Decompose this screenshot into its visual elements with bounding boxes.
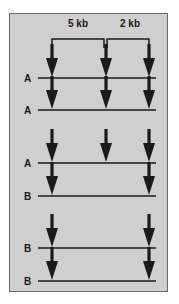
cut-site-arrow-icon bbox=[100, 129, 112, 162]
cut-site-arrow-icon bbox=[143, 44, 155, 77]
dna-row: A bbox=[24, 76, 156, 116]
cut-site-arrow-icon bbox=[46, 129, 58, 162]
restriction-map-diagram: 5 kb 2 kb AAABBB bbox=[0, 0, 179, 304]
cut-site-arrow-icon bbox=[143, 247, 155, 280]
row-label: B bbox=[24, 276, 31, 287]
cut-site-arrow-icon bbox=[46, 162, 58, 195]
row-label: A bbox=[24, 73, 31, 84]
dna-row: B bbox=[24, 162, 156, 202]
row-label: B bbox=[24, 191, 31, 202]
cut-site-arrow-icon bbox=[46, 76, 58, 109]
distance-bracket bbox=[52, 39, 149, 48]
cut-site-arrow-icon bbox=[100, 76, 112, 109]
dna-row: B bbox=[24, 214, 156, 254]
cut-site-arrow-icon bbox=[46, 247, 58, 280]
dna-row: A bbox=[24, 129, 156, 169]
cut-site-arrow-icon bbox=[143, 76, 155, 109]
cut-site-arrow-icon bbox=[143, 162, 155, 195]
row-label: A bbox=[24, 105, 31, 116]
cut-site-arrow-icon bbox=[46, 214, 58, 247]
cut-site-arrow-icon bbox=[143, 214, 155, 247]
dna-row: B bbox=[24, 247, 156, 287]
cut-site-arrow-icon bbox=[143, 129, 155, 162]
cut-site-arrow-icon bbox=[100, 44, 112, 77]
row-label: A bbox=[24, 158, 31, 169]
distance-label-2kb: 2 kb bbox=[120, 18, 140, 29]
row-label: B bbox=[24, 243, 31, 254]
distance-label-5kb: 5 kb bbox=[68, 18, 88, 29]
dna-row: A bbox=[24, 44, 156, 84]
cut-site-arrow-icon bbox=[46, 44, 58, 77]
